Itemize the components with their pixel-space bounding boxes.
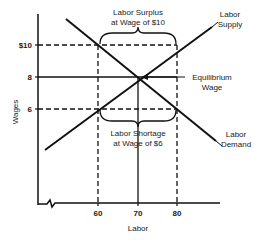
equilibrium-label-line2: Wage [202,83,223,92]
shortage-label-line2: at Wage of $6 [113,139,163,148]
supply-label-line1: Labor [220,10,241,19]
y-axis-label: Wages [11,100,20,125]
demand-label-line2: Demand [221,140,251,149]
y-tick-6: 6 [28,105,33,114]
equilibrium-label-line1: Equilibrium [192,73,232,82]
x-tick-80: 80 [173,209,182,218]
supply-label-line2: Supply [218,20,242,29]
labor-market-chart: $10 8 6 60 70 80 Labor Wages Labor Suppl… [0,0,255,243]
x-tick-70: 70 [134,209,143,218]
surplus-brace [100,27,176,44]
surplus-label-line2: at Wage of $10 [111,18,166,27]
x-tick-60: 60 [94,209,103,218]
y-tick-8: 8 [28,73,33,82]
demand-label-line1: Labor [226,130,247,139]
y-tick-10: $10 [19,41,33,50]
surplus-label-line1: Labor Surplus [113,8,163,17]
shortage-label-line1: Labor Shortage [110,129,166,138]
x-axis-label: Labor [128,224,149,233]
x-axis-with-break [38,200,220,207]
